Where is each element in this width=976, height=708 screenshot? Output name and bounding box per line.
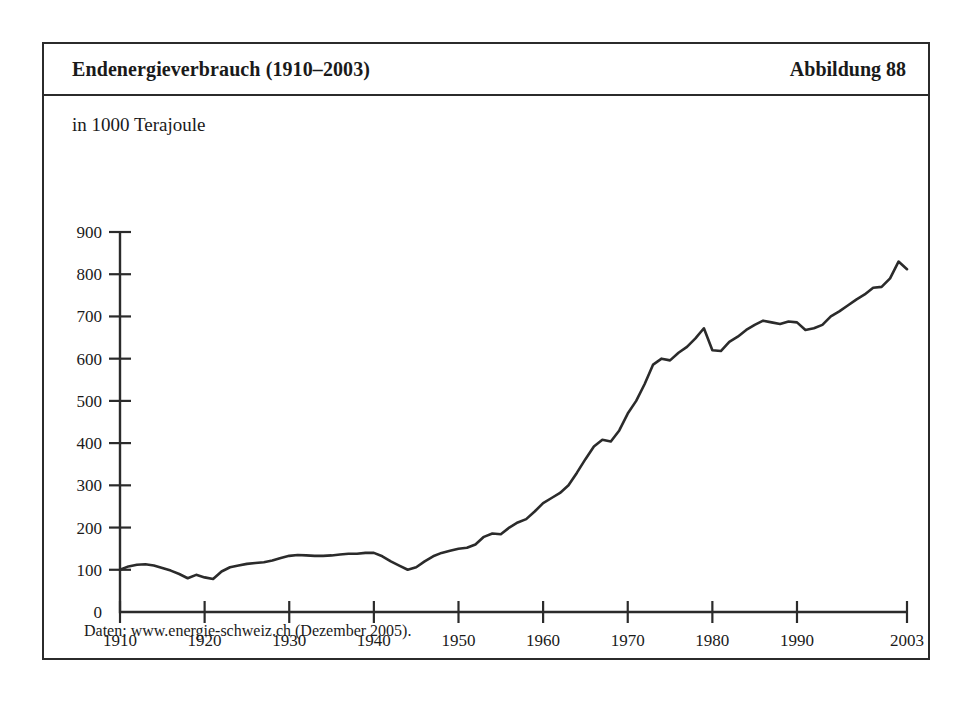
axis-lines — [120, 232, 907, 612]
data-series-group — [120, 262, 907, 580]
y-tick-label: 400 — [77, 434, 103, 453]
x-tick-label: 1960 — [526, 631, 560, 650]
y-tick-label: 800 — [77, 265, 103, 284]
figure-container: Endenergieverbrauch (1910–2003) Abbildun… — [42, 42, 930, 660]
x-tick-label: 1980 — [695, 631, 729, 650]
y-tick-label: 100 — [77, 561, 103, 580]
y-tick-label: 200 — [77, 519, 103, 538]
x-tick-label: 1950 — [441, 631, 475, 650]
x-tick-label: 2003 — [890, 631, 924, 650]
x-tick-label: 1990 — [780, 631, 814, 650]
x-tick-label: 1970 — [611, 631, 645, 650]
line-chart: 0100200300400500600700800900 19101920193… — [44, 96, 928, 658]
y-tick-label: 900 — [77, 223, 103, 242]
y-tick-label: 500 — [77, 392, 103, 411]
y-tick-label: 300 — [77, 476, 103, 495]
figure-header: Endenergieverbrauch (1910–2003) Abbildun… — [44, 44, 928, 96]
figure-number-label: Abbildung 88 — [790, 58, 906, 81]
chart-plot-area: 0100200300400500600700800900 19101920193… — [44, 96, 928, 658]
data-line-endenergieverbrauch — [120, 262, 907, 580]
figure-title: Endenergieverbrauch (1910–2003) — [72, 58, 370, 81]
y-tick-label: 700 — [77, 307, 103, 326]
y-tick-label: 600 — [77, 350, 103, 369]
figure-body: in 1000 Terajoule 0100200300400500600700… — [44, 96, 928, 658]
source-note: Daten: www.energie-schweiz.ch (Dezember … — [84, 622, 411, 640]
y-axis: 0100200300400500600700800900 — [77, 223, 132, 622]
y-tick-label: 0 — [94, 603, 103, 622]
